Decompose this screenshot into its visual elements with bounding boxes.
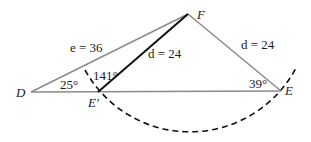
side-DF-label: e = 36 [70,40,103,55]
angle-D-label: 25° [60,77,78,92]
vertex-Eprime-label: E′ [87,95,99,110]
vertex-E-label: E [284,83,293,98]
vertex-F-label: F [196,7,206,22]
side-FE-label: d = 24 [241,37,275,52]
angle-E-label: 39° [249,76,267,91]
triangle-diagram: D E′ F E e = 36 d = 24 d = 24 25° 141° 3… [0,0,311,142]
side-EprimeF-label: d = 24 [148,46,182,61]
angle-Eprime-label: 141° [93,68,118,83]
vertex-D-label: D [15,85,26,100]
